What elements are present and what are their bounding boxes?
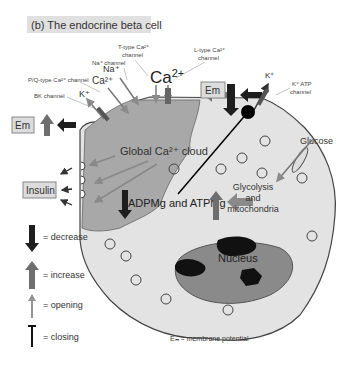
legend: = decrease = increase = opening = closin…: [25, 225, 88, 347]
katp-label-2: channel: [290, 89, 311, 95]
em-note: Eₘ = membrane potential: [170, 335, 249, 343]
k-ion-right: K⁺: [265, 71, 274, 80]
glycolysis-label-1: Glycolysis: [233, 182, 274, 192]
glycolysis-label-3: mitochondria: [227, 204, 279, 214]
glucose-label: Glucose: [300, 136, 333, 146]
glycolysis-label-2: and: [245, 193, 260, 203]
legend-decrease-label: = decrease: [43, 232, 88, 242]
title-box: (b) The endocrine beta cell: [27, 16, 162, 33]
bk-decrease-arrow: [57, 118, 76, 132]
t-type-label-1: T-type Ca²⁺: [118, 44, 149, 50]
title: (b) The endocrine beta cell: [31, 19, 162, 31]
increase-arrow-icon: [25, 261, 39, 289]
legend-increase-label: = increase: [43, 270, 85, 280]
beta-cell-diagram: (b) The endocrine beta cell Nucleus Ca2+…: [0, 0, 357, 368]
insulin-label: Insulin: [26, 185, 55, 196]
closing-icon: [28, 326, 36, 347]
katp-label-1: K⁺ ATP: [292, 81, 312, 87]
t-type-label-2: channel: [122, 52, 143, 58]
insulin-release-arrows: [61, 168, 72, 205]
k-ion-left: K⁺: [79, 89, 90, 99]
em-right-label: Em: [205, 85, 220, 96]
opening-arrow-icon: [28, 294, 36, 318]
ca-small-label: Ca²⁺: [92, 75, 113, 86]
bk-channel-label: BK channel: [34, 93, 65, 99]
em-left-increase-arrow: [40, 114, 54, 136]
l-type-label-2: channel: [198, 55, 219, 61]
na-channel-label: Na⁺ channel: [92, 60, 125, 66]
legend-opening-label: = opening: [43, 300, 83, 310]
l-type-label-1: L-type Ca²⁺: [194, 47, 225, 53]
em-left-label: Em: [15, 120, 30, 131]
l-type-channel: [165, 88, 171, 104]
legend-closing-label: = closing: [43, 332, 79, 342]
nucleus-label: Nucleus: [218, 252, 258, 264]
ca-ion-label: Ca2+: [150, 67, 184, 87]
pq-channel-label: P/Q-type Ca²⁺ channel: [28, 77, 89, 83]
global-ca-label: Global Ca²⁺ cloud: [120, 145, 208, 157]
exocytosis-sites: [81, 162, 85, 198]
decrease-arrow-icon: [25, 225, 39, 252]
